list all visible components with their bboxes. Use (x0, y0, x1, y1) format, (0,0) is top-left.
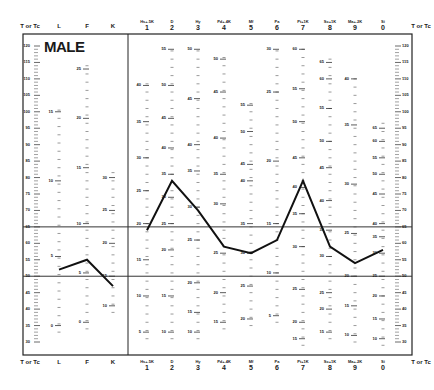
raw-score-label-7: 50 (283, 119, 297, 124)
left-t-tick-label: 100 (14, 109, 30, 114)
clinical-header-number-8: 8 (320, 24, 340, 31)
raw-score-label-9: 35 (335, 122, 349, 127)
clinical-footer-number-0: 0 (373, 364, 393, 371)
raw-score-label-2: 40 (152, 145, 166, 150)
raw-score-label-7: 45 (283, 155, 297, 160)
clinical-header-number-1: 1 (137, 24, 157, 31)
raw-score-label-5: 40 (231, 178, 245, 183)
raw-score-label-8: 35 (310, 227, 324, 232)
raw-score-label-K: 25 (93, 207, 107, 212)
raw-score-label-2: 45 (152, 115, 166, 120)
left-t-tick-label: 80 (14, 175, 30, 180)
raw-score-label-8: 60 (310, 76, 324, 81)
raw-score-label-8: 20 (310, 306, 324, 311)
clinical-header-number-5: 5 (241, 24, 261, 31)
right-t-tick-label: 110 (402, 76, 418, 81)
left-t-tick-label: 40 (14, 306, 30, 311)
raw-score-label-8: 55 (310, 105, 324, 110)
right-axis-title-top: T or Tc (406, 23, 434, 29)
raw-score-label-2: 30 (152, 194, 166, 199)
raw-score-label-L: 0 (39, 323, 53, 328)
raw-score-label-F: 25 (67, 66, 81, 71)
right-axis-title-bottom: T or Tc (406, 359, 434, 365)
left-t-tick-label: 105 (14, 92, 30, 97)
raw-score-label-F: 0 (67, 319, 81, 324)
raw-score-label-0: 30 (363, 250, 377, 255)
left-axis-title-top: T or Tc (15, 23, 45, 29)
raw-score-label-5: 45 (231, 161, 245, 166)
clinical-footer-number-2: 2 (162, 364, 182, 371)
right-t-tick-label: 75 (402, 191, 418, 196)
raw-score-label-8: 65 (310, 59, 324, 64)
raw-score-label-6: 20 (257, 158, 271, 163)
clinical-footer-number-3: 3 (188, 364, 208, 371)
clinical-header-number-2: 2 (162, 24, 182, 31)
raw-score-label-0: 40 (363, 221, 377, 226)
raw-score-label-4: 20 (204, 290, 218, 295)
raw-score-label-3: 15 (178, 309, 192, 314)
raw-score-label-2: 15 (152, 293, 166, 298)
left-t-tick-label: 65 (14, 224, 30, 229)
raw-score-label-9: 25 (335, 230, 349, 235)
raw-score-label-4: 40 (204, 135, 218, 140)
raw-score-label-K: 15 (93, 273, 107, 278)
raw-score-label-0: 50 (363, 171, 377, 176)
raw-score-label-7: 40 (283, 184, 297, 189)
right-t-tick-label: 70 (402, 207, 418, 212)
clinical-header-number-0: 0 (373, 24, 393, 31)
raw-score-label-0: 25 (363, 273, 377, 278)
raw-score-label-6: 25 (257, 89, 271, 94)
mmpi-profile-sheet: 1201201151151101101051051001009595909085… (0, 0, 434, 390)
raw-score-label-4: 30 (204, 201, 218, 206)
right-t-tick-label: 50 (402, 273, 418, 278)
raw-score-label-F: 15 (67, 165, 81, 170)
raw-score-label-9: 40 (335, 76, 349, 81)
right-t-tick-label: 30 (402, 339, 418, 344)
raw-score-label-8: 50 (310, 138, 324, 143)
raw-score-label-F: 20 (67, 115, 81, 120)
raw-score-label-3: 45 (178, 96, 192, 101)
raw-score-label-0: 10 (363, 336, 377, 341)
raw-score-label-7: 35 (283, 211, 297, 216)
clinical-header-number-4: 4 (214, 24, 234, 31)
raw-score-label-L: 10 (39, 178, 53, 183)
raw-score-label-7: 25 (283, 286, 297, 291)
raw-score-label-1: 5 (127, 329, 141, 334)
raw-score-label-0: 65 (363, 125, 377, 130)
clinical-footer-number-7: 7 (293, 364, 313, 371)
raw-score-label-7: 20 (283, 319, 297, 324)
raw-score-label-2: 10 (152, 329, 166, 334)
raw-score-label-2: 20 (152, 247, 166, 252)
raw-score-label-7: 30 (283, 244, 297, 249)
raw-score-label-8: 40 (310, 198, 324, 203)
left-t-tick-label: 70 (14, 207, 30, 212)
raw-score-label-2: 25 (152, 221, 166, 226)
raw-score-label-L: 5 (39, 253, 53, 258)
raw-score-label-8: 25 (310, 290, 324, 295)
raw-score-label-8: 30 (310, 253, 324, 258)
right-t-tick-label: 45 (402, 290, 418, 295)
raw-score-label-1: 30 (127, 155, 141, 160)
raw-score-label-F: 5 (67, 270, 81, 275)
raw-score-label-1: 25 (127, 188, 141, 193)
clinical-header-number-9: 9 (345, 24, 365, 31)
right-t-tick-label: 40 (402, 306, 418, 311)
right-t-tick-label: 85 (402, 158, 418, 163)
validity-footer-K: K (98, 359, 128, 365)
raw-score-label-0: 55 (363, 155, 377, 160)
raw-score-label-5: 55 (231, 102, 245, 107)
raw-score-label-2: 55 (152, 46, 166, 51)
raw-score-label-5: 35 (231, 221, 245, 226)
validity-header-L: L (44, 23, 74, 29)
left-t-tick-label: 55 (14, 257, 30, 262)
raw-score-label-3: 20 (178, 280, 192, 285)
clinical-footer-number-9: 9 (345, 364, 365, 371)
raw-score-label-6: 15 (257, 221, 271, 226)
left-t-tick-label: 35 (14, 323, 30, 328)
clinical-footer-number-6: 6 (267, 364, 287, 371)
raw-score-label-6: 5 (257, 313, 271, 318)
clinical-header-number-3: 3 (188, 24, 208, 31)
right-t-tick-label: 115 (402, 59, 418, 64)
clinical-header-number-6: 6 (267, 24, 287, 31)
raw-score-label-7: 15 (283, 336, 297, 341)
